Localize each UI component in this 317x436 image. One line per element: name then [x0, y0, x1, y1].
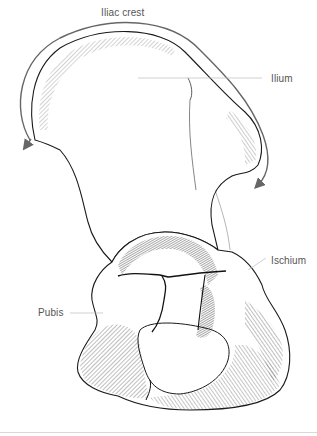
ilium-shape	[32, 32, 262, 262]
bottom-rule	[0, 432, 317, 433]
label-iliac-crest: Iliac crest	[101, 7, 144, 18]
ischium-leader	[248, 258, 266, 270]
label-ilium: Ilium	[271, 73, 293, 84]
label-ischium: Ischium	[271, 255, 306, 266]
label-pubis: Pubis	[38, 307, 64, 318]
hip-bone-illustration	[0, 0, 317, 436]
